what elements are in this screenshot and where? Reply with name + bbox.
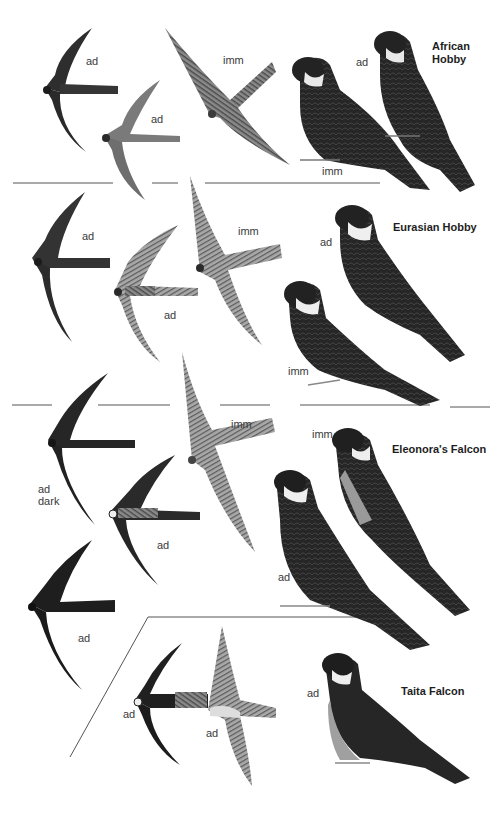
age-label: ad [307,687,319,699]
species-title-african-hobby: African Hobby [432,40,470,66]
age-label: ad [151,113,163,125]
age-label: ad [356,56,368,68]
eleonoras-falcon-flight-adult-pale [109,455,200,585]
eurasian-hobby-flight-adult-streaked [114,225,198,362]
eurasian-hobby-flight-adult-dark [32,192,110,342]
african-hobby-flight-adult-dark [43,28,118,152]
age-label: imm [312,428,333,440]
age-label: imm [288,365,309,377]
age-label: ad [164,309,176,321]
age-label: ad [157,539,169,551]
age-label: ad [82,230,94,242]
eleonoras-falcon-flight-adult-dark-2 [28,540,115,690]
age-label: ad [86,55,98,67]
taita-falcon-perched-adult [322,653,470,784]
age-label: imm [223,54,244,66]
taita-falcon-flight-adult-upper [208,626,276,786]
species-title-eurasian-hobby: Eurasian Hobby [393,221,477,234]
age-label: ad [320,236,332,248]
age-label: imm [238,225,259,237]
eleonoras-falcon-flight-immature [182,352,275,552]
eurasian-hobby-flight-immature [190,176,282,345]
african-hobby-flight-immature [165,28,290,165]
falcon-identification-plate: African Hobby ad ad imm ad imm Eurasian … [0,0,502,816]
taita-falcon-flight-adult-under [134,643,208,765]
age-label: ad [123,708,135,720]
age-label: imm [322,165,343,177]
age-label: imm [231,418,252,430]
section-dividers [12,183,490,757]
african-hobby-flight-adult-pale [102,80,180,200]
age-label: ad [206,727,218,739]
species-title-taita-falcon: Taita Falcon [401,685,464,698]
age-label: ad [278,571,290,583]
age-label: ad [78,632,90,644]
age-label: ad dark [38,483,59,507]
species-title-eleonoras-falcon: Eleonora's Falcon [392,443,486,456]
